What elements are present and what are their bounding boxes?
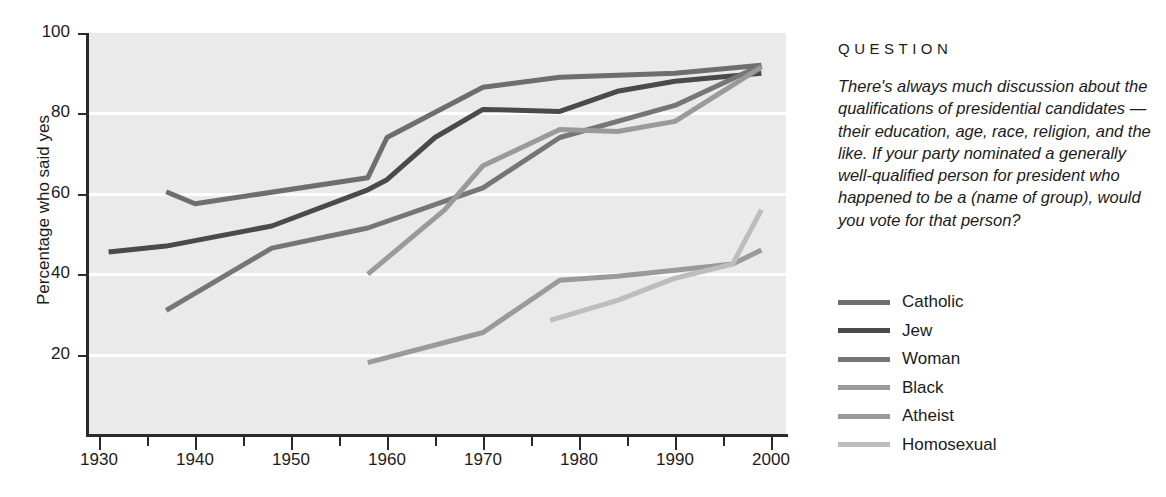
legend-swatch-icon — [838, 385, 890, 390]
legend-item-atheist[interactable]: Atheist — [838, 402, 1158, 431]
question-heading: QUESTION — [838, 40, 952, 57]
legend-swatch-icon — [838, 414, 890, 419]
series-line-atheist — [368, 250, 762, 363]
legend-swatch-icon — [838, 442, 890, 447]
series-line-jew — [109, 73, 762, 252]
legend-item-catholic[interactable]: Catholic — [838, 288, 1158, 317]
legend-swatch-icon — [838, 300, 890, 305]
series-line-black — [368, 67, 762, 274]
legend-label: Homosexual — [902, 435, 997, 455]
series-line-homosexual — [550, 210, 761, 321]
legend-item-black[interactable]: Black — [838, 374, 1158, 403]
chart-legend: CatholicJewWomanBlackAtheistHomosexual — [838, 288, 1158, 459]
line-chart: 20406080100 1930194019501960197019801990… — [0, 0, 800, 497]
series-line-catholic — [166, 65, 761, 204]
legend-label: Atheist — [902, 406, 954, 426]
question-text: There's always much discussion about the… — [838, 75, 1154, 231]
legend-label: Black — [902, 378, 944, 398]
chart-page: 20406080100 1930194019501960197019801990… — [0, 0, 1166, 497]
series-lines — [0, 0, 800, 497]
legend-item-woman[interactable]: Woman — [838, 345, 1158, 374]
legend-swatch-icon — [838, 357, 890, 362]
legend-label: Catholic — [902, 292, 963, 312]
legend-swatch-icon — [838, 328, 890, 333]
legend-label: Jew — [902, 321, 932, 341]
legend-item-homosexual[interactable]: Homosexual — [838, 431, 1158, 460]
legend-label: Woman — [902, 349, 960, 369]
legend-item-jew[interactable]: Jew — [838, 317, 1158, 346]
side-panel: QUESTION There's always much discussion … — [838, 0, 1166, 497]
